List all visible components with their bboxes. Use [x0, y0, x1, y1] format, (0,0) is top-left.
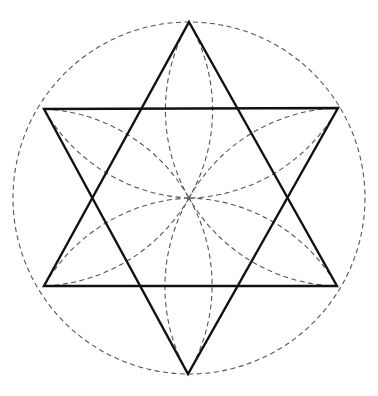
upward-triangle: [44, 22, 337, 286]
downward-triangle: [44, 108, 338, 374]
petal-top: [165, 22, 212, 198]
flower-petals: [44, 22, 338, 374]
hexagram-diagram: [0, 0, 378, 396]
